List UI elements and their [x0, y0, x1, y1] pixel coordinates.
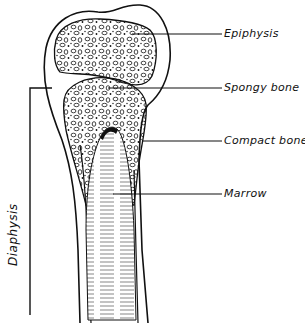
- bone-diagram: [0, 0, 305, 323]
- label-compact-bone: Compact bone: [224, 134, 305, 147]
- label-marrow: Marrow: [224, 187, 267, 200]
- epiphysis-region: [54, 19, 156, 85]
- label-epiphysis: Epiphysis: [224, 27, 279, 40]
- diaphysis-bracket: [30, 88, 52, 315]
- label-spongy-bone: Spongy bone: [224, 81, 299, 94]
- label-diaphysis: Diaphysis: [6, 203, 20, 266]
